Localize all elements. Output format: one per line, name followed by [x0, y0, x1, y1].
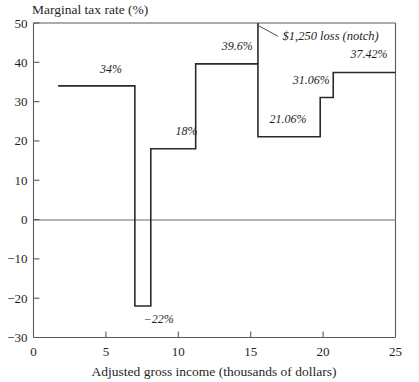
segment-value-label: −22% — [144, 312, 174, 326]
y-tick-label: −30 — [7, 330, 27, 345]
y-tick-label: 40 — [15, 55, 28, 70]
y-tick-label: −10 — [7, 251, 27, 266]
x-axis-title: Adjusted gross income (thousands of doll… — [92, 364, 337, 379]
chart-canvas: Marginal tax rate (%) Adjusted gross inc… — [0, 0, 419, 382]
annotation-group: $1,250 loss (notch) — [258, 25, 379, 43]
segment-value-label: 39.6% — [221, 39, 253, 53]
segment-value-label: 21.06% — [270, 112, 307, 126]
annotation-leader-line — [258, 25, 278, 36]
x-tick-label: 25 — [389, 344, 402, 359]
tax-rate-step-chart: Marginal tax rate (%) Adjusted gross inc… — [0, 0, 419, 382]
y-tick-label: −20 — [7, 291, 27, 306]
marginal-rate-step-line — [58, 64, 395, 306]
notch-annotation-label: $1,250 loss (notch) — [283, 29, 379, 43]
y-axis-title: Marginal tax rate (%) — [32, 2, 148, 17]
segment-value-label: 34% — [99, 62, 122, 76]
data-label-group: 34%−22%18%39.6%21.06%31.06%37.42% — [99, 39, 388, 326]
x-tick-label: 0 — [30, 344, 37, 359]
y-tick-label: 30 — [15, 94, 28, 109]
y-tick-group: −30−20−1001020304050 — [7, 16, 39, 346]
x-tick-label: 10 — [172, 344, 185, 359]
x-tick-label: 15 — [244, 344, 257, 359]
x-tick-label: 20 — [317, 344, 330, 359]
segment-value-label: 31.06% — [292, 73, 330, 87]
x-tick-group: 0510152025 — [30, 332, 402, 359]
segment-value-label: 37.42% — [350, 47, 388, 61]
segment-value-label: 18% — [175, 124, 197, 138]
y-tick-label: 20 — [15, 133, 28, 148]
y-tick-label: 10 — [15, 173, 28, 188]
y-tick-label: 0 — [21, 212, 28, 227]
x-tick-label: 5 — [103, 344, 110, 359]
axes-group — [34, 23, 396, 338]
y-tick-label: 50 — [15, 16, 28, 31]
